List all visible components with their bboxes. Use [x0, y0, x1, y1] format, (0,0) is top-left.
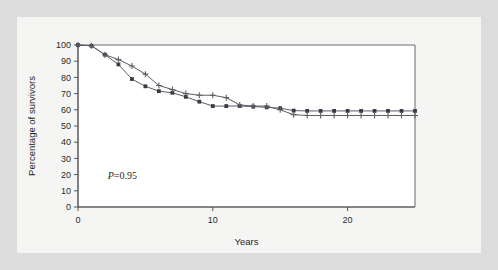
p-value-annotation: P=0.95 [107, 170, 137, 181]
data-point-square [373, 109, 377, 113]
data-point-square [413, 109, 417, 113]
y-tick-label: 60 [61, 105, 71, 115]
y-tick-label: 90 [61, 56, 71, 66]
y-tick-label: 100 [56, 40, 71, 50]
data-point-square [130, 77, 134, 81]
data-point-square [144, 84, 148, 88]
y-tick-label: 40 [61, 137, 71, 147]
y-axis-title: Percentage of survivors [26, 76, 37, 176]
y-tick-label: 20 [61, 170, 71, 180]
data-point-square [359, 109, 363, 113]
data-point-square [319, 109, 323, 113]
data-point-square [346, 109, 350, 113]
data-point-square [386, 109, 390, 113]
plot-area: 010203040506070809010001020YearsPercenta… [26, 40, 418, 247]
x-tick-label: 20 [343, 215, 353, 225]
x-tick-label: 10 [208, 215, 218, 225]
plot-background [78, 45, 415, 207]
data-point-square [305, 109, 309, 113]
figure-panel: 010203040506070809010001020YearsPercenta… [17, 17, 481, 253]
data-point-square [400, 109, 404, 113]
survival-curve-chart: 010203040506070809010001020YearsPercenta… [17, 17, 481, 253]
data-point-square [211, 104, 215, 108]
data-point-square [117, 63, 121, 67]
y-tick-label: 30 [61, 154, 71, 164]
y-tick-label: 0 [66, 202, 71, 212]
y-tick-label: 70 [61, 89, 71, 99]
x-tick-label: 0 [75, 215, 80, 225]
data-point-square [157, 89, 161, 93]
x-axis-title: Years [235, 236, 259, 247]
y-tick-label: 10 [61, 186, 71, 196]
y-tick-label: 50 [61, 121, 71, 131]
data-point-square [332, 109, 336, 113]
data-point-square [197, 100, 201, 104]
data-point-square [224, 104, 228, 108]
y-tick-label: 80 [61, 73, 71, 83]
figure-root: 010203040506070809010001020YearsPercenta… [0, 0, 498, 270]
